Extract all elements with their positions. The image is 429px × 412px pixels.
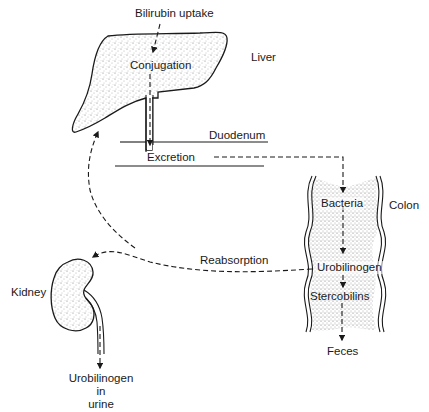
label-excretion: Excretion [147,151,195,164]
label-urine-line3: urine [88,398,114,411]
label-liver: Liver [251,51,276,64]
kidney-shape [51,259,104,354]
label-urine-line1: Urobilinogen [69,372,134,385]
label-colon: Colon [389,199,419,212]
label-conjugation: Conjugation [130,59,191,72]
label-stercobilins: Stercobilins [310,290,369,303]
label-kidney: Kidney [11,286,46,299]
label-urobilinogen: Urobilinogen [316,261,383,274]
label-bilirubin-uptake: Bilirubin uptake [135,7,214,20]
label-urine-line2: in [97,385,106,398]
label-feces: Feces [327,345,358,358]
label-reabsorption: Reabsorption [200,254,268,267]
bilirubin-metabolism-diagram [0,0,429,412]
label-bacteria: Bacteria [320,197,364,210]
label-duodenum: Duodenum [209,129,265,142]
